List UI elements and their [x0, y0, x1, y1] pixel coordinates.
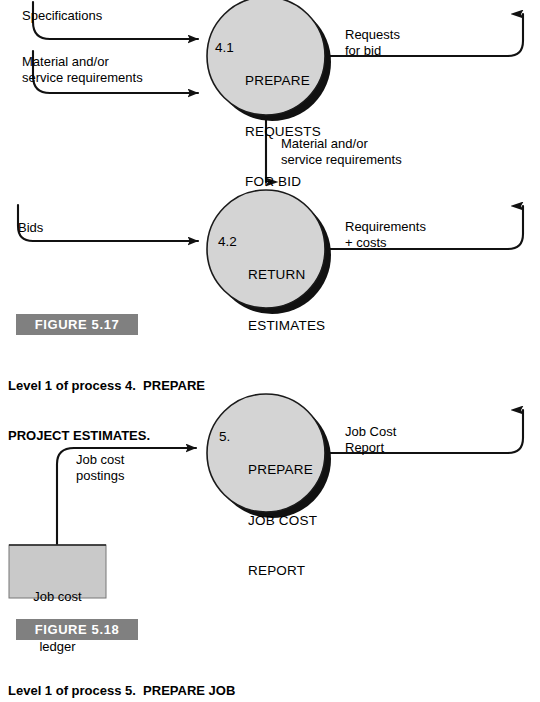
flow-label-bids: Bids: [18, 220, 43, 236]
process-5-label-line-2: JOB COST: [248, 513, 317, 530]
process-5-label-line-3: REPORT: [248, 563, 317, 580]
flow-label-material-service-mid-line-1: Material and/or: [281, 136, 402, 152]
flow-label-job-cost-postings: Job cost postings: [76, 452, 124, 484]
flow-label-material-service-in-line-2: service requirements: [22, 70, 143, 86]
figure-5-17-caption-line-1: Level 1 of process 4. PREPARE: [8, 378, 205, 395]
process-5-label-line-1: PREPARE: [248, 462, 317, 479]
flow-label-material-service-mid: Material and/or service requirements: [281, 136, 402, 168]
flow-label-requests-for-bid-line-1: Requests: [345, 27, 400, 43]
flow-label-requests-for-bid-line-2: for bid: [345, 43, 400, 59]
flow-label-job-cost-report-line-1: Job Cost: [345, 424, 396, 440]
flow-label-requirements-costs-line-2: + costs: [345, 235, 426, 251]
figure-5-18-band: FIGURE 5.18: [16, 619, 138, 640]
process-5-number: 5.: [219, 429, 230, 444]
figure-5-18-caption: Level 1 of process 5. PREPARE JOB: [8, 650, 235, 702]
figure-5-17-caption-line-2: PROJECT ESTIMATES.: [8, 428, 205, 445]
process-4-1-label-line-3: FOR BID: [245, 174, 321, 191]
flow-label-job-cost-report: Job Cost Report: [345, 424, 396, 456]
flow-label-material-service-in: Material and/or service requirements: [22, 54, 143, 86]
flow-label-requirements-costs: Requirements + costs: [345, 219, 426, 251]
process-4-2-label: RETURN ESTIMATES: [248, 234, 325, 368]
process-4-2-number: 4.2: [218, 234, 237, 249]
figure-5-18-caption-line-1: Level 1 of process 5. PREPARE JOB: [8, 683, 235, 700]
process-4-1-label-line-1: PREPARE: [245, 73, 321, 90]
process-5-label: PREPARE JOB COST REPORT: [248, 429, 317, 613]
flow-label-job-cost-postings-line-1: Job cost: [76, 452, 124, 468]
process-4-2-label-line-2: ESTIMATES: [248, 318, 325, 335]
process-4-2-label-line-1: RETURN: [248, 267, 325, 284]
process-4-1-number: 4.1: [215, 40, 234, 55]
flow-label-job-cost-postings-line-2: postings: [76, 468, 124, 484]
flow-label-requirements-costs-line-1: Requirements: [345, 219, 426, 235]
flow-label-material-service-in-line-1: Material and/or: [22, 54, 143, 70]
flow-label-requests-for-bid: Requests for bid: [345, 27, 400, 59]
flow-line-bids: [18, 205, 198, 241]
flow-label-job-cost-report-line-2: Report: [345, 440, 396, 456]
data-store-job-cost-ledger-line-1: Job cost: [9, 589, 106, 606]
flow-label-specifications: Specifications: [22, 8, 102, 24]
process-4-1-label: PREPARE REQUESTS FOR BID: [245, 40, 321, 224]
figure-5-17-band: FIGURE 5.17: [16, 314, 138, 335]
flow-label-material-service-mid-line-2: service requirements: [281, 152, 402, 168]
